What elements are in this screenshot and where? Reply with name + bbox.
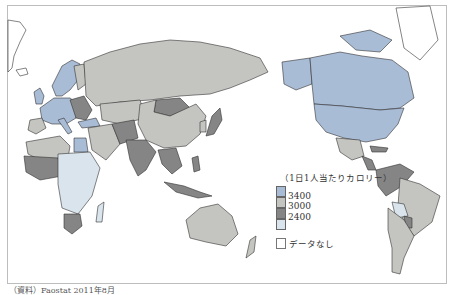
philippines [192, 156, 200, 172]
legend-swatch-lowest [276, 219, 286, 230]
southeast-asia [158, 148, 182, 174]
legend-swatch-mid [276, 197, 286, 208]
japan [206, 108, 222, 136]
india [126, 140, 156, 176]
legend-swatch-no-data [276, 238, 286, 249]
iceland [16, 68, 28, 76]
west-africa [24, 156, 62, 180]
legend-label-2400: 2400 [288, 212, 311, 222]
map-legend: （1日1人当たりカロリー） 3400 3000 2400 データなし [276, 173, 392, 249]
legend-swatch-high [276, 186, 286, 197]
canada-arctic-islands [340, 30, 392, 52]
usa [314, 104, 404, 142]
new-zealand [246, 236, 256, 258]
russia [84, 40, 268, 106]
central-america [362, 156, 376, 170]
australia [186, 204, 238, 246]
legend-title: （1日1人当たりカロリー） [280, 173, 392, 183]
legend-no-data-label: データなし [289, 239, 334, 249]
east-central-africa [58, 152, 100, 214]
uk [34, 88, 44, 104]
south-africa [64, 214, 82, 234]
greenland-right [396, 6, 438, 60]
canada [310, 52, 414, 110]
korea [200, 120, 206, 132]
egypt [74, 138, 88, 152]
legend-label-3000: 3000 [288, 201, 311, 211]
madagascar [96, 202, 104, 222]
legend-scale: 3400 3000 2400 [276, 186, 392, 230]
greenland-left [8, 20, 26, 72]
legend-swatch-low [276, 208, 286, 219]
alaska [282, 58, 312, 90]
source-note: （資料）Faostat 2011年8月 [9, 284, 115, 295]
legend-label-3400: 3400 [288, 191, 311, 201]
indonesia [164, 182, 212, 198]
legend-no-data: データなし [276, 238, 392, 249]
mexico [336, 138, 364, 160]
caribbean [370, 146, 388, 152]
